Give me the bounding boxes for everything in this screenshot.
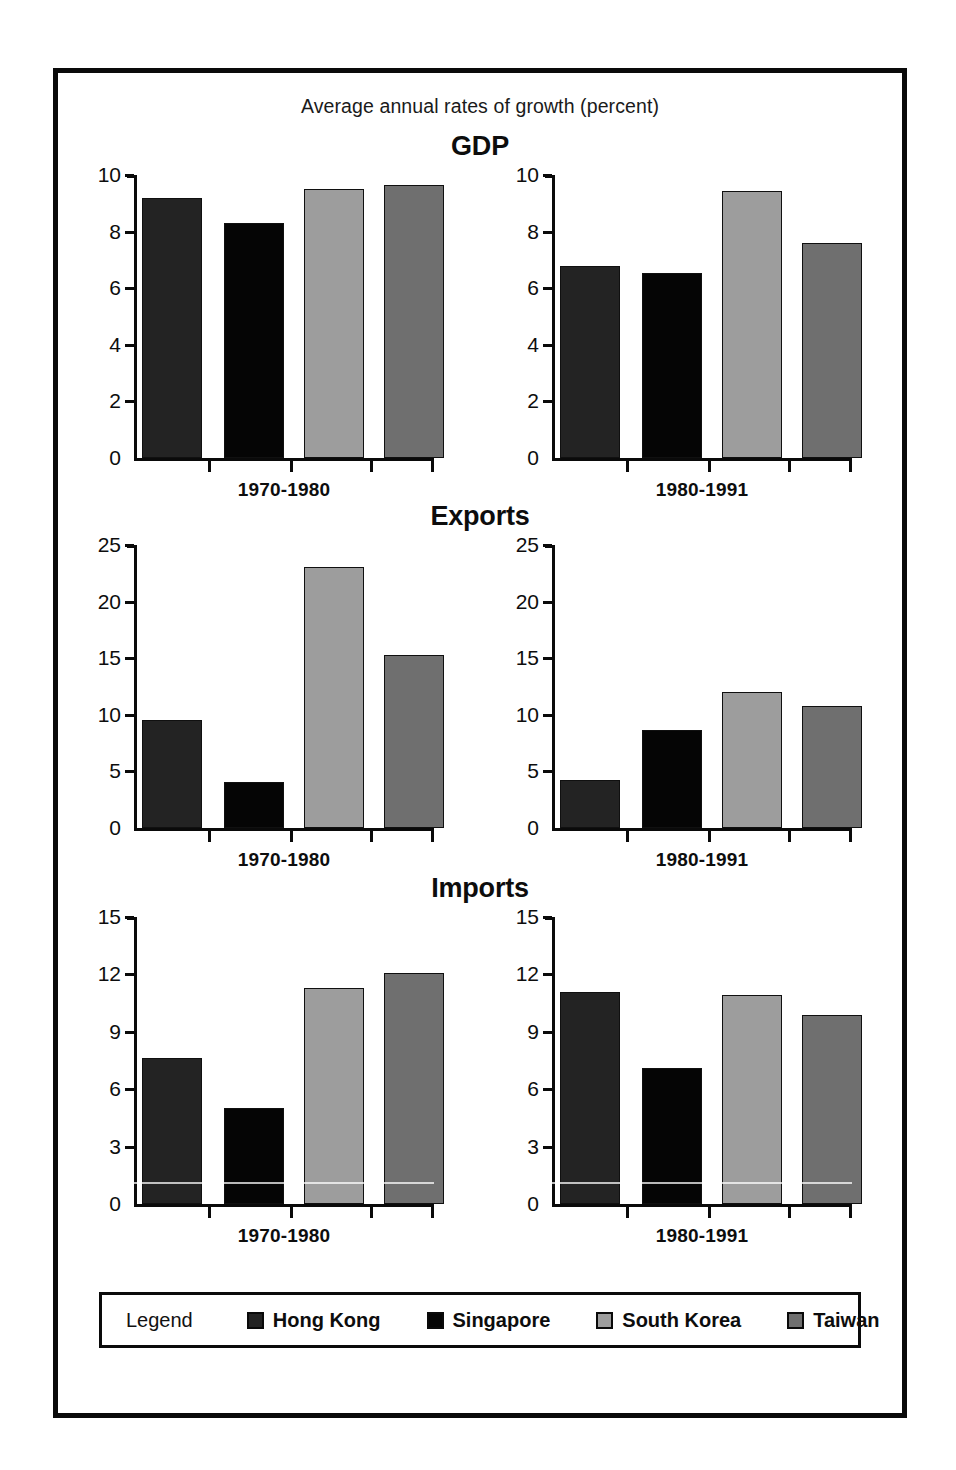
legend-label-taiwan: Taiwan	[813, 1309, 879, 1332]
bar-hk	[142, 198, 202, 458]
plot-area: 036912151980-1991	[552, 917, 852, 1207]
bar-kr	[304, 988, 364, 1204]
y-axis-tick	[543, 287, 552, 290]
y-axis-tick-label: 8	[109, 219, 121, 243]
bar-sg	[224, 782, 284, 828]
y-axis-tick-label: 25	[516, 533, 539, 557]
y-axis-tick-label: 6	[527, 276, 539, 300]
y-axis-tick-label: 6	[527, 1077, 539, 1101]
figure-subtitle: Average annual rates of growth (percent)	[58, 95, 902, 118]
y-axis-tick	[543, 1146, 552, 1149]
y-axis-tick-label: 15	[516, 905, 539, 929]
y-axis-tick	[125, 973, 134, 976]
y-axis-line	[134, 175, 137, 461]
x-axis-tick	[290, 461, 293, 472]
y-axis-tick-label: 6	[109, 276, 121, 300]
y-axis-tick-label: 10	[516, 163, 539, 187]
x-axis-tick	[626, 831, 629, 842]
y-axis-tick	[543, 400, 552, 403]
bar-tw	[802, 706, 862, 828]
bar-kr	[722, 692, 782, 828]
x-axis-tick	[788, 1207, 791, 1218]
y-axis-tick-label: 12	[516, 962, 539, 986]
bar-hk	[560, 266, 620, 458]
y-axis-tick	[543, 544, 552, 547]
legend-swatch-singapore	[427, 1312, 444, 1329]
legend-label-south-korea: South Korea	[622, 1309, 741, 1332]
legend-label-singapore: Singapore	[453, 1309, 551, 1332]
bar-tw	[802, 1015, 862, 1204]
y-axis-tick	[543, 1088, 552, 1091]
y-axis-tick-label: 10	[98, 702, 121, 726]
x-axis-period-label: 1970-1980	[134, 849, 434, 871]
y-axis-tick	[125, 231, 134, 234]
y-axis-tick-label: 0	[527, 1192, 539, 1216]
y-axis-tick	[543, 770, 552, 773]
x-axis-tick	[788, 461, 791, 472]
chart-group-imports: Imports 036912151970-1980 036912151980-1…	[58, 873, 902, 1268]
y-axis-tick	[125, 174, 134, 177]
y-axis-tick	[543, 714, 552, 717]
y-axis-tick-label: 10	[516, 702, 539, 726]
legend-swatch-hong-kong	[247, 1312, 264, 1329]
group-title-imports: Imports	[58, 873, 902, 904]
plot-area: 036912151970-1980	[134, 917, 434, 1207]
y-axis-line	[552, 917, 555, 1207]
y-axis-tick-label: 4	[109, 332, 121, 356]
y-axis-tick-label: 0	[109, 816, 121, 840]
bar-tw	[384, 973, 444, 1204]
y-axis-tick	[543, 601, 552, 604]
plot-area: 05101520251980-1991	[552, 545, 852, 831]
x-axis-line	[134, 828, 434, 831]
y-axis-tick-label: 2	[527, 389, 539, 413]
y-axis-tick-label: 9	[527, 1019, 539, 1043]
x-axis-tick	[708, 461, 711, 472]
x-axis-tick	[370, 1207, 373, 1218]
x-axis-period-label: 1970-1980	[134, 1225, 434, 1247]
legend-item-hong-kong: Hong Kong	[247, 1309, 381, 1332]
x-axis-tick	[208, 461, 211, 472]
x-axis-tick	[788, 831, 791, 842]
y-axis-tick-label: 20	[516, 589, 539, 613]
bar-tw	[384, 185, 444, 458]
x-axis-tick	[208, 1207, 211, 1218]
x-axis-period-label: 1980-1991	[552, 1225, 852, 1247]
x-axis-line	[552, 828, 852, 831]
y-axis-tick	[125, 1146, 134, 1149]
y-axis-tick-label: 3	[109, 1134, 121, 1158]
y-axis-tick	[125, 601, 134, 604]
x-axis-line	[552, 458, 852, 461]
x-axis-line	[134, 458, 434, 461]
y-axis-tick	[543, 231, 552, 234]
bar-sg	[642, 273, 702, 458]
y-axis-tick	[543, 973, 552, 976]
y-axis-tick	[543, 344, 552, 347]
bar-kr	[722, 191, 782, 458]
y-axis-line	[552, 175, 555, 461]
y-axis-line	[552, 545, 555, 831]
y-axis-tick	[125, 344, 134, 347]
bar-hk	[142, 720, 202, 828]
legend-item-taiwan: Taiwan	[787, 1309, 879, 1332]
legend-label-hong-kong: Hong Kong	[273, 1309, 381, 1332]
legend-swatch-south-korea	[596, 1312, 613, 1329]
bar-kr	[304, 189, 364, 458]
x-axis-period-label: 1970-1980	[134, 479, 434, 501]
y-axis-tick-label: 25	[98, 533, 121, 557]
x-axis-tick	[290, 831, 293, 842]
y-axis-tick-label: 6	[109, 1077, 121, 1101]
y-axis-tick-label: 5	[109, 759, 121, 783]
legend-title: Legend	[126, 1309, 193, 1332]
group-title-gdp: GDP	[58, 131, 902, 162]
x-axis-line	[552, 1204, 852, 1207]
bar-kr	[722, 995, 782, 1204]
y-axis-tick-label: 20	[98, 589, 121, 613]
x-axis-tick	[431, 1207, 434, 1218]
x-axis-period-label: 1980-1991	[552, 479, 852, 501]
x-axis-period-label: 1980-1991	[552, 849, 852, 871]
x-axis-line	[134, 1204, 434, 1207]
x-axis-tick	[849, 831, 852, 842]
x-axis-tick	[431, 831, 434, 842]
chart-group-exports: Exports 05101520251970-1980 051015202519…	[58, 501, 902, 873]
group-title-exports: Exports	[58, 501, 902, 532]
